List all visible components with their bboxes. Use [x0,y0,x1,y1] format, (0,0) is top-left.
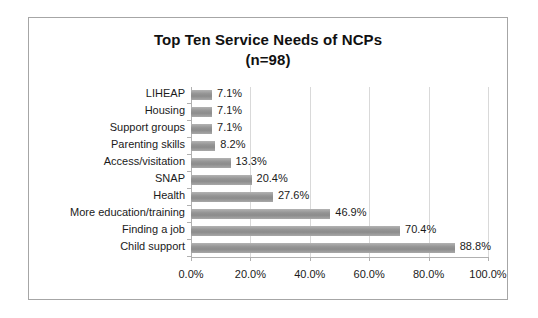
bar [191,107,212,117]
bar-row: Child support88.8% [191,240,488,257]
x-tick-label: 0.0% [161,267,221,281]
bar-row: Health27.6% [191,189,488,206]
category-label: SNAP [155,171,185,186]
bar-row: More education/training46.9% [191,206,488,223]
category-label: Child support [120,239,185,254]
bar [191,192,273,202]
chart-title-main: Top Ten Service Needs of NCPs [154,31,382,48]
bar-value-label: 8.2% [220,137,245,152]
chart-title: Top Ten Service Needs of NCPs (n=98) [29,30,507,70]
bar [191,158,231,168]
bar-row: LIHEAP7.1% [191,87,488,104]
bar-value-label: 13.3% [236,154,267,169]
chart-subtitle: (n=98) [29,50,507,70]
x-tick-label: 100.0% [458,267,518,281]
bar-row: SNAP20.4% [191,172,488,189]
bar-value-label: 70.4% [405,222,436,237]
bar-value-label: 88.8% [460,239,491,254]
bar-row: Support groups7.1% [191,121,488,138]
category-label: Parenting skills [111,137,185,152]
category-label: Finding a job [122,222,185,237]
bar [191,175,252,185]
bar-row: Access/visitation13.3% [191,155,488,172]
plot-area: LIHEAP7.1%Housing7.1%Support groups7.1%P… [191,87,488,257]
bar [191,243,455,253]
x-tick-label: 80.0% [399,267,459,281]
category-label: Health [153,188,185,203]
bar-row: Finding a job70.4% [191,223,488,240]
bar-row: Housing7.1% [191,104,488,121]
category-label: Housing [145,103,185,118]
category-label: Support groups [110,120,185,135]
bar [191,124,212,134]
x-tick-label: 20.0% [220,267,280,281]
bar-value-label: 7.1% [217,86,242,101]
chart-frame: Top Ten Service Needs of NCPs (n=98) LIH… [28,17,508,300]
bar [191,226,400,236]
x-gridline [488,87,489,257]
bar-value-label: 46.9% [335,205,366,220]
bar [191,141,215,151]
bar [191,90,212,100]
category-label: LIHEAP [146,86,185,101]
bar-value-label: 20.4% [257,171,288,186]
category-label: More education/training [70,205,185,220]
bar-value-label: 7.1% [217,103,242,118]
bar [191,209,330,219]
x-tick-label: 60.0% [339,267,399,281]
bar-value-label: 7.1% [217,120,242,135]
category-label: Access/visitation [104,154,185,169]
bar-row: Parenting skills8.2% [191,138,488,155]
bar-value-label: 27.6% [278,188,309,203]
x-tick-label: 40.0% [280,267,340,281]
x-axis-baseline [191,257,489,258]
